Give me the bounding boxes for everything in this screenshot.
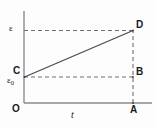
point-marker-b: [132, 76, 134, 78]
x-axis-label: t: [71, 110, 74, 120]
figure-container: ε C ε0 O t D B A: [0, 0, 157, 127]
point-label-d: D: [136, 20, 143, 30]
point-label-b: B: [136, 67, 143, 77]
epsilon-subscript: 0: [11, 79, 14, 86]
y-axis-intercept-label: ε0: [7, 76, 14, 85]
data-line-c-to-d: [25, 31, 134, 78]
origin-label: O: [12, 104, 20, 114]
y-axis-max-label: ε: [9, 24, 13, 33]
point-marker-c: [24, 76, 26, 78]
point-label-a: A: [130, 105, 137, 115]
point-marker-d: [132, 30, 134, 32]
point-label-c: C: [13, 66, 20, 76]
